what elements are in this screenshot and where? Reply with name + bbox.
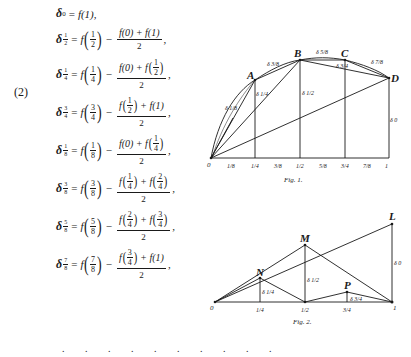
fig2-tick-label: 1/4 (256, 307, 264, 313)
fig1-point-B (299, 59, 302, 62)
fig2-line-ON (215, 278, 260, 302)
fig2-line-halfP (305, 292, 347, 302)
fig1-tick-label: 1/2 (296, 163, 304, 169)
fig2-label-M: M (299, 232, 311, 244)
fig1-delta-label: δ 0 (390, 117, 397, 123)
fig1-delta-label: δ 7/8 (371, 59, 383, 65)
fig2-tick-label: 3/4 (342, 307, 351, 313)
fig1-delta-label: δ 3/8 (267, 61, 279, 67)
fig1-label-D: D (390, 72, 399, 84)
fig2-label-N: N (255, 266, 265, 278)
fig2-point-O (214, 301, 217, 304)
fig2-delta-label: δ 1/4 (262, 289, 274, 295)
fig2-point-half (304, 301, 307, 304)
fig2-label-P: P (344, 279, 351, 291)
fig1-label-B: B (293, 47, 301, 59)
figure-1 (211, 58, 389, 158)
fig1-tick-label: 1 (385, 163, 388, 169)
fig2-end-label: 1 (393, 304, 397, 312)
fig2-delta-label: δ 0 (394, 260, 401, 266)
fig1-delta-label: δ 1/8 (225, 105, 237, 111)
fig2-point-M (304, 244, 307, 247)
fig1-delta-label: δ 3/4 (336, 63, 348, 69)
fig1-tick-label: 1/4 (251, 163, 259, 169)
fig1-delta-label: δ 1/4 (256, 91, 268, 97)
fig1-tick-label: 3/8 (273, 163, 282, 169)
fig2-line-M1 (305, 245, 392, 302)
fig1-label-C: C (341, 47, 349, 59)
fig1-tick-label: 1/8 (227, 163, 235, 169)
figures: ABCDδ 1/8δ 1/4δ 3/8δ 1/2δ 5/8δ 3/4δ 7/8δ… (0, 0, 411, 357)
fig1-tick-label: 7/8 (363, 163, 371, 169)
fig1-delta-label: δ 1/2 (302, 90, 314, 96)
fig1-point-D (388, 77, 391, 80)
fig2-point-L (391, 223, 394, 226)
fig1-origin-label: 0 (207, 161, 211, 169)
fig1-tick-label: 5/8 (319, 163, 327, 169)
fig2-caption: Fig. 2. (292, 318, 312, 326)
fig1-caption: Fig. 1. (283, 176, 303, 184)
fig2-delta-label: δ 3/4 (350, 296, 362, 302)
fig2-point-P (346, 291, 349, 294)
fig1-point-O (210, 157, 213, 160)
fig1-point-C (344, 59, 347, 62)
fig1-delta-label: δ 5/8 (316, 49, 328, 55)
fig2-delta-label: δ 1/2 (307, 277, 319, 283)
fig2-label-L: L (388, 210, 396, 222)
fig1-tick-label: 3/4 (340, 163, 349, 169)
fig2-origin-label: 0 (210, 304, 214, 312)
fig1-label-A: A (246, 69, 254, 81)
fig2-tick-label: 1/2 (301, 307, 309, 313)
